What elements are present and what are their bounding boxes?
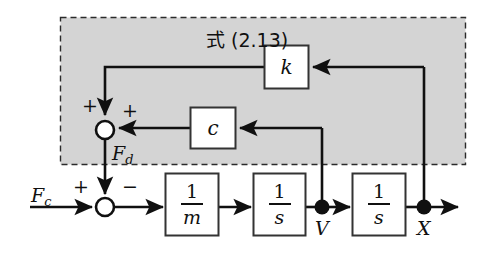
signal-label-fc-base: F [31,184,44,206]
sign-lower-sum-right: − [122,177,138,196]
signal-label-fc-subscript: c [44,194,51,209]
fraction-numerator: 1 [186,182,198,202]
signal-label-fd-subscript: d [125,152,133,167]
fraction-bar [269,203,291,205]
summing-junction-lower [96,198,114,216]
fraction-bar [181,203,203,205]
fraction-bar [368,203,390,205]
fraction-denominator: m [183,207,201,227]
fraction-numerator: 1 [273,182,285,202]
summing-junction-upper [96,121,114,139]
signal-label-x: X [417,219,431,238]
signal-label-v: V [315,219,329,238]
sign-upper-sum-right: + [122,101,138,120]
sign-upper-sum-left: + [82,96,98,115]
block-label-integrator-2: 1 s [352,173,406,236]
block-label-k: k [264,45,309,89]
sign-lower-sum-left: + [73,177,89,196]
block-diagram-figure: 式 (2.13) k c 1 m 1 s 1 s Fc Fd V X + + +… [0,0,487,254]
node-velocity [315,200,330,215]
signal-label-fd: Fd [112,144,133,167]
block-label-inverse-mass: 1 m [165,173,219,236]
node-position [417,200,432,215]
signal-label-fd-base: F [112,142,125,164]
signal-label-fc: Fc [31,186,51,209]
fraction-numerator: 1 [373,182,385,202]
fraction-denominator: s [275,207,285,227]
fraction-denominator: s [374,207,384,227]
block-label-integrator-1: 1 s [253,173,306,236]
block-label-c: c [190,107,236,149]
